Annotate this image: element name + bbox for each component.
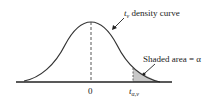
t-distribution-diagram: tν density curve Shaded area = α 0 tα,ν: [0, 0, 220, 101]
density-curve: [24, 22, 160, 82]
shaded-tail-area: [133, 68, 160, 82]
curve-label: tν density curve: [124, 8, 180, 19]
critical-value-label: tα,ν: [129, 86, 139, 97]
zero-tick-label: 0: [88, 86, 93, 96]
shaded-area-label: Shaded area = α: [143, 54, 201, 64]
curve-arrow-line: [114, 18, 124, 28]
shade-arrow-line: [145, 64, 155, 73]
shade-arrow-dot-icon: [143, 73, 146, 76]
